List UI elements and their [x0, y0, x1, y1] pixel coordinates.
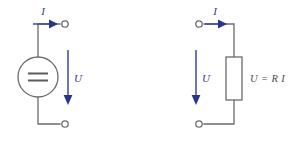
current-label-left: I: [40, 5, 46, 17]
top-wire-right: [204, 24, 234, 57]
current-arrow-head-left: [49, 20, 58, 29]
dc-source-symbol: [18, 57, 58, 97]
schematic-canvas: I U I U U = R I: [0, 0, 293, 142]
current-arrow-head-right: [218, 20, 227, 29]
terminal-bottom-right: [196, 121, 202, 127]
current-label-right: I: [212, 5, 218, 17]
top-wire-left: [38, 24, 60, 57]
voltage-arrow-head-right: [192, 95, 201, 105]
voltage-source-circuit: I U: [18, 5, 83, 127]
voltage-label-right: U: [202, 72, 211, 84]
circuit-diagram-figure: I U I U U = R I: [0, 0, 293, 142]
bottom-wire-right: [204, 100, 234, 124]
ohms-law-equation: U = R I: [250, 73, 285, 84]
terminal-bottom-left: [62, 121, 68, 127]
bottom-wire-left: [38, 97, 60, 124]
resistor-circuit: I U U = R I: [192, 5, 286, 127]
terminal-top-right: [196, 21, 202, 27]
voltage-arrow-head-left: [64, 95, 73, 105]
resistor-symbol: [226, 57, 242, 100]
terminal-top-left: [62, 21, 68, 27]
voltage-label-left: U: [74, 72, 83, 84]
